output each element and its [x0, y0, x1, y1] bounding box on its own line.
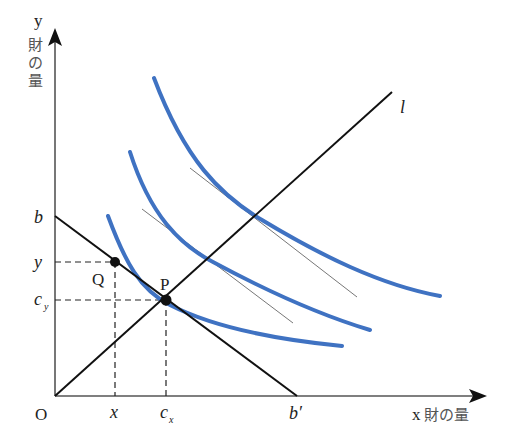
- tangent-line-3: [190, 168, 357, 297]
- b-prime-label: b′: [289, 403, 303, 423]
- point-q-label: Q: [92, 270, 104, 289]
- cy-tick-label: c: [34, 289, 42, 309]
- origin-label: O: [35, 405, 47, 424]
- cy-tick-subscript: y: [43, 301, 49, 312]
- x-axis-var-label: x: [412, 405, 421, 424]
- y-axis-text-char-2: の: [28, 54, 43, 72]
- y-axis-text-char-1: 財: [28, 36, 43, 54]
- point-q-marker: [110, 257, 120, 267]
- cx-tick-label: c: [160, 402, 168, 422]
- ray-l-label: l: [400, 97, 405, 117]
- point-p-label: P: [160, 275, 169, 294]
- indifference-curve-3: [154, 78, 440, 296]
- budget-line: [55, 216, 297, 396]
- x-axis-text-label: 財の量: [424, 406, 469, 424]
- y-axis-text-char-3: 量: [28, 72, 43, 90]
- ray-l: [55, 92, 392, 396]
- x-tick-label: x: [109, 402, 118, 422]
- y-tick-label: y: [32, 252, 42, 272]
- point-p-marker: [161, 295, 172, 306]
- b-label: b: [34, 207, 43, 227]
- diagram-canvas: y 財 の 量 O b b′ y c y x c x Q P l x 財の量: [0, 0, 516, 446]
- cx-tick-subscript: x: [168, 414, 174, 425]
- y-axis-var-label: y: [34, 11, 43, 30]
- diagram-svg: y 財 の 量 O b b′ y c y x c x Q P l x 財の量: [0, 0, 516, 446]
